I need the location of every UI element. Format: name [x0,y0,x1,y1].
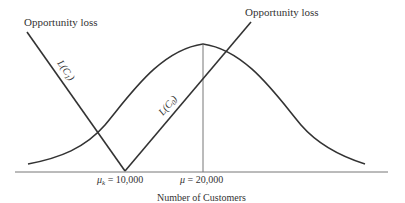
loss-c0-label: L(C0) [155,93,180,120]
mu-label: μ = 20,000 [179,174,223,185]
mu-k-label: μk = 10,000 [96,174,143,187]
svg-text:L(C1): L(C1) [53,57,77,84]
loss-c1-line [27,32,125,171]
svg-text:L(C0): L(C0) [155,93,180,120]
loss-c1-label: L(C1) [53,57,77,84]
diagram-canvas: Opportunity loss Opportunity loss L(C1) … [0,0,405,203]
loss-c0-line [125,22,251,171]
x-axis-title: Number of Customers [157,192,246,203]
right-opportunity-loss-label: Opportunity loss [245,6,319,18]
left-opportunity-loss-label: Opportunity loss [24,16,98,28]
